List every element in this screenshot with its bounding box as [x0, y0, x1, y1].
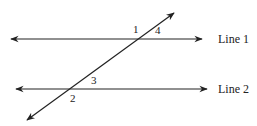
- angle-1-label: 1: [133, 23, 139, 35]
- line-1-label: Line 1: [218, 32, 249, 46]
- line-2-label: Line 2: [218, 82, 249, 96]
- transversal-line: [27, 13, 174, 120]
- angle-3-label: 3: [91, 74, 97, 86]
- angle-2-label: 2: [70, 92, 76, 104]
- geometry-diagram: Line 1 Line 2 1 4 3 2: [0, 0, 257, 126]
- angle-4-label: 4: [155, 24, 161, 36]
